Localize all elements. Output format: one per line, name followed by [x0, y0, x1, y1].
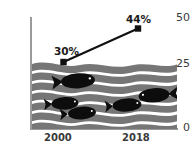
chart-figure: 50 25 0 2000 2018	[0, 0, 190, 153]
chart-title-clipped	[0, 0, 190, 6]
data-label-2018: 44%	[126, 14, 151, 25]
data-label-2000: 30%	[54, 46, 79, 57]
wave-pattern-svg	[32, 62, 177, 129]
x-tick-label-2000: 2000	[44, 133, 72, 143]
data-point-marker-2018	[135, 25, 141, 31]
x-tick-label-2018: 2018	[122, 133, 150, 143]
ocean-wave-band	[32, 62, 177, 129]
y-tick-label-50: 50	[164, 12, 190, 23]
